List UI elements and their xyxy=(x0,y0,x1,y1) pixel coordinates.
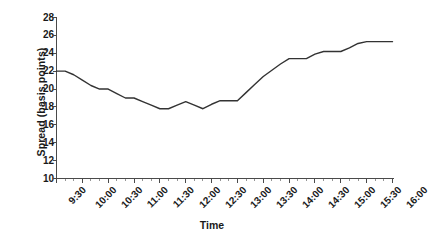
x-axis-tick-label: 11:00 xyxy=(145,185,170,210)
x-axis-tick-label: 9:30 xyxy=(66,185,87,206)
x-axis-tick-label: 13:00 xyxy=(249,185,274,210)
x-axis-tick-label: 15:30 xyxy=(378,185,403,210)
x-axis-tick-label: 16:00 xyxy=(404,185,429,210)
x-axis-tick-label: 12:00 xyxy=(197,185,222,210)
x-axis-tick-label: 13:30 xyxy=(275,185,300,210)
x-axis-tick-label: 12:30 xyxy=(223,185,248,210)
x-axis-tick-label: 10:30 xyxy=(120,185,145,210)
x-axis-title: Time xyxy=(0,219,416,231)
x-axis-tick-label: 14:00 xyxy=(301,185,326,210)
x-axis-tick-label: 15:00 xyxy=(352,185,377,210)
x-axis-title-text: Time xyxy=(200,219,224,231)
x-axis-tick-label: 10:00 xyxy=(94,185,119,210)
x-axis-tick-label: 11:30 xyxy=(171,185,196,210)
x-axis-tick-label: 14:30 xyxy=(326,185,351,210)
